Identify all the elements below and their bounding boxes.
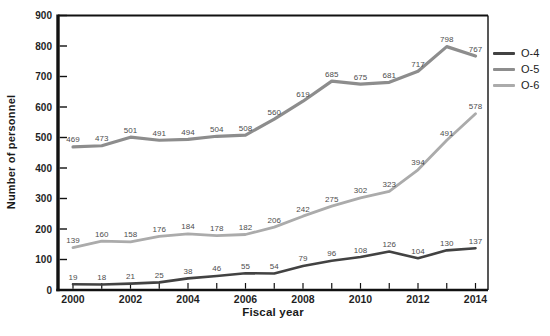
data-label-o-6: 176: [153, 225, 167, 234]
data-label-o-6: 491: [440, 129, 454, 138]
y-tick-label: 500: [35, 132, 52, 143]
legend-label-o-6: O-6: [521, 79, 539, 91]
legend-swatch-o-6: [493, 84, 515, 87]
data-label-o-6: 206: [268, 216, 282, 225]
data-label-o-4: 108: [354, 246, 368, 255]
data-label-o-4: 19: [69, 273, 78, 282]
y-tick-label: 400: [35, 163, 52, 174]
data-label-o-5: 508: [239, 124, 253, 133]
legend-swatch-o-5: [493, 68, 515, 71]
data-label-o-4: 25: [155, 271, 164, 280]
data-label-o-5: 491: [153, 129, 167, 138]
x-axis-title: Fiscal year: [58, 306, 488, 318]
y-tick-label: 700: [35, 71, 52, 82]
legend-item-o-6: O-6: [493, 80, 539, 90]
y-tick-label: 200: [35, 224, 52, 235]
x-tick-label: 2006: [234, 293, 258, 305]
data-label-o-4: 55: [241, 262, 250, 271]
data-label-o-4: 54: [270, 262, 279, 271]
chart-plot-area: 0100200300400500600700800900200020022004…: [0, 0, 550, 336]
x-tick-label: 2002: [119, 293, 143, 305]
data-label-o-6: 578: [469, 102, 483, 111]
data-label-o-6: 242: [296, 205, 310, 214]
data-label-o-5: 798: [440, 35, 454, 44]
data-label-o-6: 184: [181, 222, 195, 231]
x-tick-label: 2010: [349, 293, 373, 305]
data-label-o-4: 137: [469, 237, 483, 246]
x-tick-label: 2000: [61, 293, 85, 305]
data-label-o-5: 560: [268, 108, 282, 117]
data-label-o-4: 38: [184, 267, 193, 276]
data-label-o-5: 619: [296, 90, 310, 99]
legend-label-o-4: O-4: [521, 47, 539, 59]
data-label-o-4: 79: [299, 254, 308, 263]
data-label-o-4: 126: [383, 240, 397, 249]
legend: O-4 O-5 O-6: [493, 48, 539, 90]
data-label-o-5: 473: [95, 134, 109, 143]
y-tick-label: 800: [35, 41, 52, 52]
legend-item-o-5: O-5: [493, 64, 539, 74]
data-label-o-6: 139: [66, 236, 80, 245]
data-label-o-6: 182: [239, 223, 253, 232]
data-label-o-4: 18: [97, 273, 106, 282]
x-tick-label: 2012: [406, 293, 430, 305]
y-tick-label: 900: [35, 10, 52, 21]
x-tick-label: 2004: [176, 293, 200, 305]
x-tick-label: 2008: [291, 293, 315, 305]
data-label-o-4: 104: [411, 247, 425, 256]
data-label-o-5: 494: [181, 128, 195, 137]
legend-swatch-o-4: [493, 52, 515, 55]
data-label-o-4: 96: [327, 249, 336, 258]
data-label-o-5: 675: [354, 73, 368, 82]
data-label-o-5: 469: [66, 135, 80, 144]
data-label-o-6: 302: [354, 186, 368, 195]
data-label-o-5: 767: [469, 45, 483, 54]
data-label-o-6: 275: [325, 195, 339, 204]
data-label-o-6: 394: [411, 158, 425, 167]
data-label-o-5: 504: [210, 125, 224, 134]
y-tick-label: 300: [35, 193, 52, 204]
data-label-o-6: 178: [210, 224, 224, 233]
y-tick-label: 100: [35, 254, 52, 265]
data-label-o-5: 717: [411, 60, 425, 69]
legend-label-o-5: O-5: [521, 63, 539, 75]
data-label-o-4: 21: [126, 272, 135, 281]
data-label-o-6: 160: [95, 230, 109, 239]
x-tick-label: 2014: [464, 293, 488, 305]
data-label-o-6: 323: [383, 180, 397, 189]
data-label-o-6: 158: [124, 230, 138, 239]
y-tick-label: 600: [35, 102, 52, 113]
data-label-o-4: 46: [212, 264, 221, 273]
y-axis-title: Number of personnel: [5, 82, 17, 222]
data-label-o-5: 501: [124, 126, 138, 135]
data-label-o-5: 685: [325, 70, 339, 79]
data-label-o-4: 130: [440, 239, 454, 248]
data-label-o-5: 681: [383, 71, 397, 80]
personnel-line-chart-figure: 0100200300400500600700800900200020022004…: [0, 0, 550, 336]
y-tick-label: 0: [46, 285, 52, 296]
legend-item-o-4: O-4: [493, 48, 539, 58]
